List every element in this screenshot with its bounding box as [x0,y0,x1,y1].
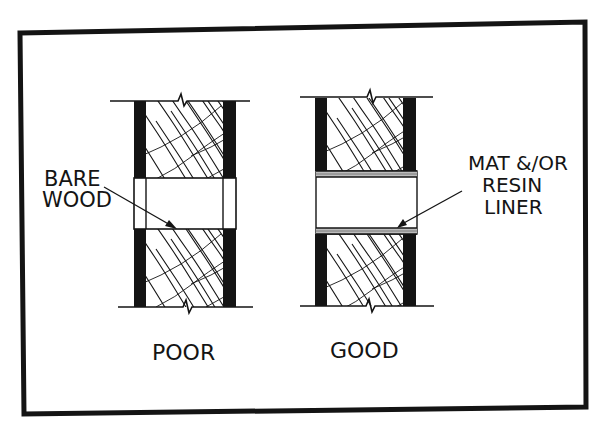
coating-left-top [315,98,327,171]
label-good: GOOD [330,338,399,363]
diagram-canvas: BARE WOOD POOR [0,0,598,438]
coating-right-bottom [403,234,416,306]
hole-bare [134,178,236,229]
coating-right-bottom [223,229,236,307]
coating-left-bottom [315,234,327,306]
label-wood: WOOD [42,188,112,212]
liner-top [316,171,417,177]
label-resin: RESIN [482,173,542,197]
poor-section: BARE WOOD POOR [42,91,335,365]
label-liner: LINER [484,195,543,219]
coating-right-top [403,98,416,171]
label-mat-or: MAT &/OR [468,151,568,175]
coating-right-top [223,101,236,178]
good-section: MAT &/OR RESIN LINER GOOD [287,88,568,369]
coating-left-bottom [134,229,146,307]
label-poor: POOR [152,340,215,365]
coating-left-top [134,101,146,178]
liner-bottom [316,228,417,234]
